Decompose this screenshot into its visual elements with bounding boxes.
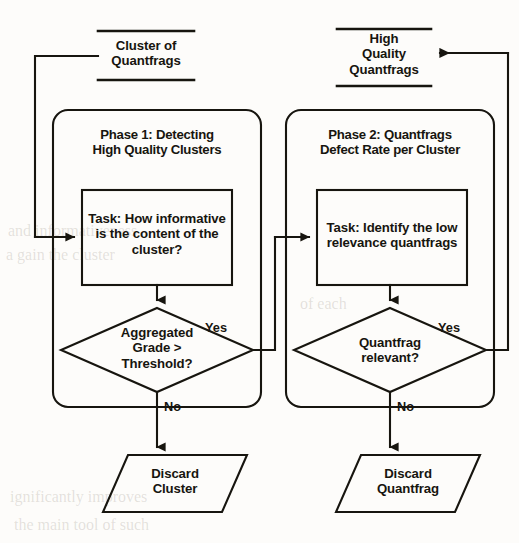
phase-1-title: Phase 1: Detecting High Quality Clusters — [57, 127, 257, 158]
phase-1-task-line-3: cluster? — [80, 242, 234, 257]
phase-1-decision-line-3: Threshold? — [97, 356, 217, 371]
phase-2-title-line-1: Phase 2: Quantfrags — [290, 127, 490, 142]
input-hq-line-3: Quantfrags — [324, 62, 444, 77]
input-hq-line-2: Quality — [324, 46, 444, 61]
phase-2-yes-label: Yes — [438, 320, 460, 335]
flowchart-graphics — [0, 0, 519, 543]
input-cluster-of-quantfrags: Cluster of Quantfrags — [86, 38, 206, 69]
phase-1-no-label: No — [164, 399, 181, 414]
phase-1-task-line-2: is the content of the — [80, 226, 234, 241]
phase-1-decision-text: Aggregated Grade > Threshold? — [97, 325, 217, 371]
phase-2-task-text: Task: Identify the low relevance quantfr… — [315, 220, 469, 251]
phase-2-terminal-text: Discard Quantfrag — [348, 466, 468, 497]
input-cluster-line-1: Cluster of — [86, 38, 206, 53]
phase-1-terminal-line-1: Discard — [115, 466, 235, 481]
phase-2-terminal-line-1: Discard — [348, 466, 468, 481]
phase-2-decision-line-2: relevant? — [330, 350, 450, 365]
phase-1-decision-line-1: Aggregated — [97, 325, 217, 340]
phase-2-no-label: No — [397, 399, 414, 414]
phase-2-title-line-2: Defect Rate per Cluster — [290, 142, 490, 157]
phase-1-yes-label: Yes — [205, 320, 227, 335]
phase-1-title-line-1: Phase 1: Detecting — [57, 127, 257, 142]
edge-decision2-yes-to-hq — [486, 53, 508, 350]
phase-2-task-line-2: relevance quantfrags — [315, 235, 469, 250]
phase-1-terminal-text: Discard Cluster — [115, 466, 235, 497]
phase-1-title-line-2: High Quality Clusters — [57, 142, 257, 157]
flowchart-canvas: and informativeness a gain the cluster o… — [0, 0, 519, 543]
phase-1-task-line-1: Task: How informative — [80, 211, 234, 226]
phase-1-task-text: Task: How informative is the content of … — [80, 211, 234, 257]
input-cluster-line-2: Quantfrags — [86, 53, 206, 68]
phase-2-terminal-line-2: Quantfrag — [348, 481, 468, 496]
edge-decision1-yes-to-task2 — [253, 237, 275, 350]
input-high-quality-quantfrags: High Quality Quantfrags — [324, 31, 444, 77]
input-hq-line-1: High — [324, 31, 444, 46]
phase-2-task-line-1: Task: Identify the low — [315, 220, 469, 235]
phase-2-decision-line-1: Quantfrag — [330, 335, 450, 350]
phase-2-decision-text: Quantfrag relevant? — [330, 335, 450, 366]
phase-2-title: Phase 2: Quantfrags Defect Rate per Clus… — [290, 127, 490, 158]
phase-1-terminal-line-2: Cluster — [115, 481, 235, 496]
phase-1-decision-line-2: Grade > — [97, 340, 217, 355]
